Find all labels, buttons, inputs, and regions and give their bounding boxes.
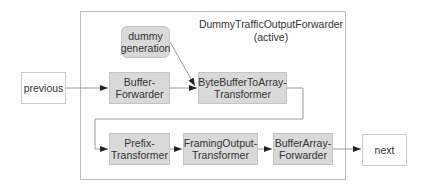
node-bufferarray-label-1: BufferArray- [275, 137, 331, 150]
node-dummy-label-2: generation [121, 42, 171, 55]
node-buffer-array-forwarder: BufferArray- Forwarder [273, 133, 333, 165]
node-previous: previous [21, 72, 66, 104]
node-bytebuffer-label-2: Transformer [198, 88, 287, 101]
node-next: next [362, 134, 407, 166]
node-buffer-forwarder-label-1: Buffer- [116, 76, 164, 89]
node-dummy-generation: dummy generation [121, 26, 170, 58]
node-bufferarray-label-2: Forwarder [275, 149, 331, 162]
node-dummy-label-1: dummy [121, 30, 171, 43]
node-prefix-transformer: Prefix- Transformer [109, 133, 170, 165]
node-prefix-label-1: Prefix- [111, 137, 168, 150]
node-buffer-forwarder-label-2: Forwarder [116, 88, 164, 101]
node-prefix-label-2: Transformer [111, 149, 168, 162]
node-framing-output-transformer: FramingOutput- Transformer [183, 133, 258, 165]
node-framing-label-2: Transformer [184, 149, 258, 162]
node-bytebuffer-label-1: ByteBufferToArray- [198, 76, 287, 89]
node-bytebuffer-to-array-transformer: ByteBufferToArray- Transformer [198, 72, 287, 104]
node-framing-label-1: FramingOutput- [184, 137, 258, 150]
node-buffer-forwarder: Buffer- Forwarder [109, 72, 170, 104]
node-previous-label: previous [24, 82, 64, 95]
node-next-label: next [375, 144, 395, 157]
edge-dummy-to-bytebuffer [170, 42, 195, 86]
